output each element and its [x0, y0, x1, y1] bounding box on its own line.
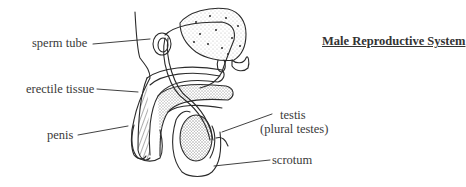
bladder: [180, 8, 246, 60]
label-scrotum: scrotum: [272, 153, 312, 167]
label-testis-plural: (plural testes): [260, 122, 328, 136]
diagram-title: Male Reproductive System: [322, 34, 466, 49]
label-penis: penis: [47, 128, 73, 142]
label-sperm-tube: sperm tube: [32, 36, 87, 50]
label-testis: testis: [280, 108, 306, 122]
label-erectile-tissue: erectile tissue: [26, 82, 94, 96]
testis-shape: [180, 115, 212, 161]
